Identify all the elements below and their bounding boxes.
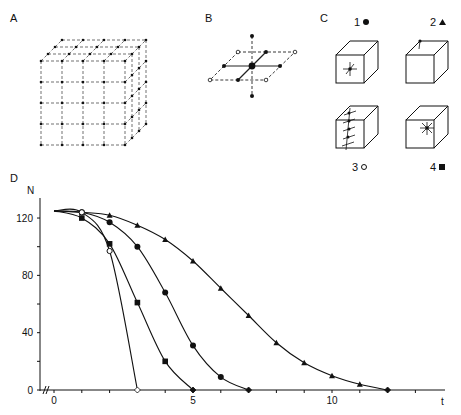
curve-series-4 <box>54 211 193 390</box>
svg-text:5: 5 <box>190 395 196 406</box>
cube-3-label: 3 <box>352 161 358 173</box>
svg-text:80: 80 <box>22 270 34 281</box>
open-circle-icon <box>362 165 367 170</box>
filled-circle-icon <box>363 19 369 25</box>
lattice-cube-figure <box>0 0 200 160</box>
panel-label-d: D <box>10 172 18 184</box>
svg-text:10: 10 <box>326 395 338 406</box>
node-neighbourhood-figure <box>200 10 320 120</box>
curve-series-3 <box>54 209 137 390</box>
y-axis-label: N <box>27 185 34 196</box>
cube-1-label: 1 <box>354 16 360 28</box>
filled-square-icon <box>439 164 445 170</box>
damage-cubes-figure: 1 2 3 4 <box>310 0 461 180</box>
curve-series-1 <box>54 211 249 390</box>
svg-text:40: 40 <box>22 327 34 338</box>
filled-triangle-icon <box>439 19 446 25</box>
cube-2-label: 2 <box>430 16 436 28</box>
curve-series-2 <box>54 211 388 390</box>
svg-text:0: 0 <box>27 385 33 396</box>
svg-text:120: 120 <box>16 213 33 224</box>
svg-text:0: 0 <box>51 395 57 406</box>
cube-4-label: 4 <box>430 161 436 173</box>
x-axis-label: t <box>441 396 444 407</box>
